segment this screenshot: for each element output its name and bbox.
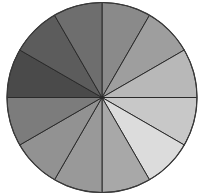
pie-chart-canvas bbox=[0, 0, 205, 195]
pie-slices bbox=[7, 3, 197, 193]
pie-chart bbox=[0, 0, 205, 195]
